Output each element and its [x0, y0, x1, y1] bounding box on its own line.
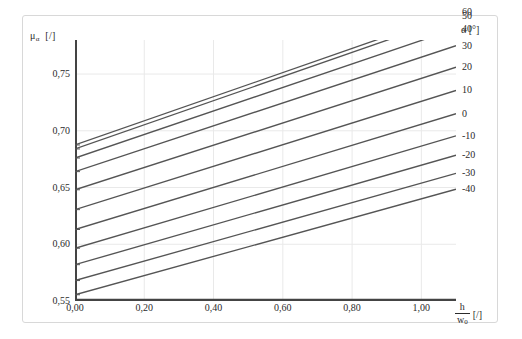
- x-tick-label: 1,00: [413, 303, 431, 313]
- legend-item--20: -20: [462, 150, 475, 160]
- x-tick-label: 0,00: [66, 303, 84, 313]
- legend-item--40: -40: [462, 184, 475, 194]
- x-axis-fraction: h w0: [455, 302, 470, 326]
- series-line-40: [75, 40, 456, 158]
- legend-item--10: -10: [462, 131, 475, 141]
- legend-item-30: 30: [462, 41, 472, 51]
- x-tick-label: 0,20: [136, 303, 154, 313]
- legend-item-50: 50: [462, 11, 472, 21]
- legend-item-20: 20: [462, 62, 472, 72]
- y-tick-label: 0,60: [24, 239, 70, 249]
- y-tick-label: 0,65: [24, 183, 70, 193]
- legend-item-0: 0: [462, 109, 467, 119]
- x-tick-label: 0,60: [274, 303, 292, 313]
- legend-item--30: -30: [462, 168, 475, 178]
- y-tick-label: 0,70: [24, 126, 70, 136]
- series-line--40: [75, 189, 456, 295]
- x-tick-label: 0,80: [343, 303, 361, 313]
- plot-svg: [75, 40, 456, 301]
- x-axis-denominator: w0: [455, 313, 470, 326]
- y-tick-labels: 0,550,600,650,700,75: [22, 0, 70, 339]
- x-axis-denominator-subscript: 0: [464, 318, 468, 326]
- legend-item-40: 40: [462, 24, 472, 34]
- series-line--30: [75, 173, 456, 280]
- x-axis-unit: [/]: [473, 309, 482, 320]
- y-tick-label: 0,75: [24, 69, 70, 79]
- plot-area: [75, 40, 456, 301]
- series-line-50: [75, 40, 456, 149]
- chart-figure: μα [/] α [°] 0,550,600,650,700,75 0,000,…: [0, 0, 522, 339]
- x-tick-labels: 0,000,200,400,600,801,00: [0, 303, 522, 323]
- legend-item-10: 10: [462, 85, 472, 95]
- x-tick-label: 0,40: [205, 303, 223, 313]
- x-axis-title: h w0 [/]: [455, 302, 482, 326]
- series-lines: [75, 40, 456, 295]
- legend-items: 6050403020100-10-20-30-40: [458, 0, 504, 339]
- x-axis-numerator: h: [458, 302, 467, 313]
